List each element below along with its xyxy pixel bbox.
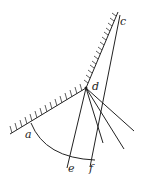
label-f: f: [88, 162, 95, 175]
optics-diagram: c d a e f: [0, 0, 144, 178]
line-d-e: [67, 88, 86, 168]
mirror-lower-hatching: [10, 84, 82, 133]
point-d: [85, 87, 88, 90]
ray-d-2: [86, 88, 124, 149]
mirror-lower-segment: [10, 88, 86, 134]
label-c: c: [120, 15, 126, 28]
ray-d-3: [86, 88, 134, 131]
mirror-upper-hatching: [84, 13, 116, 83]
label-e: e: [68, 162, 75, 175]
arc-a-to-f: [31, 123, 95, 160]
label-d: d: [92, 80, 99, 93]
label-a: a: [25, 128, 32, 141]
